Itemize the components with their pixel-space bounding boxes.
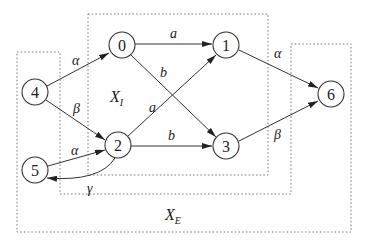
node-6: 6 xyxy=(318,81,344,107)
svg-text:5: 5 xyxy=(31,162,39,179)
node-4: 4 xyxy=(22,79,48,105)
node-5: 5 xyxy=(22,157,48,183)
edge-label-5-2: α xyxy=(71,143,79,158)
region-x-external xyxy=(17,44,351,232)
svg-text:2: 2 xyxy=(114,137,122,154)
svg-text:6: 6 xyxy=(327,86,335,103)
region-label-x-external: XE xyxy=(164,206,181,226)
svg-text:1: 1 xyxy=(222,37,230,54)
edge-label-1-6: α xyxy=(274,46,282,61)
node-3: 3 xyxy=(213,133,239,159)
svg-text:4: 4 xyxy=(31,84,39,101)
edge-label-4-0: α xyxy=(72,53,80,68)
edge-label-0-1: a xyxy=(170,26,177,41)
node-0: 0 xyxy=(109,32,135,58)
edge-label-0-3: b xyxy=(160,65,167,80)
edge-label-2-1: a xyxy=(149,100,156,115)
svg-text:3: 3 xyxy=(222,138,230,155)
edge-label-3-6: β xyxy=(273,127,281,142)
node-2: 2 xyxy=(105,132,131,158)
svg-text:0: 0 xyxy=(118,37,126,54)
state-graph-diagram: α β a b a b α β α γ XI XE 0 1 2 3 4 5 6 xyxy=(0,0,366,243)
edge-label-2-5: γ xyxy=(87,181,93,196)
edge-label-2-3: b xyxy=(168,128,175,143)
edge-label-4-2: β xyxy=(72,101,80,116)
node-1: 1 xyxy=(213,32,239,58)
region-label-x-internal: XI xyxy=(109,88,124,108)
